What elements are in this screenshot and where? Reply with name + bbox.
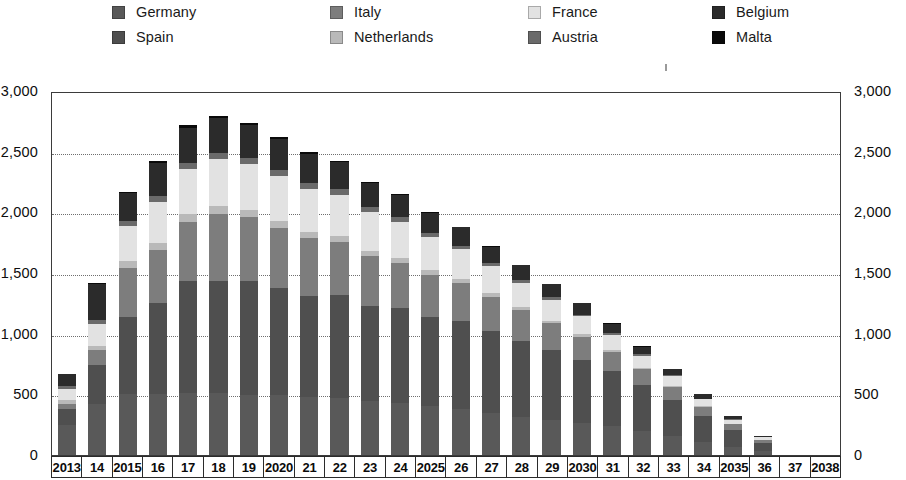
bar-segment-france <box>240 164 258 210</box>
y-tick-label-right: 0 <box>854 447 906 463</box>
bar-segment-spain <box>330 295 348 398</box>
bar-2030[interactable] <box>573 303 591 455</box>
x-tick-label: 26 <box>446 457 476 477</box>
bar-segment-france <box>573 316 591 334</box>
x-tick-label: 29 <box>538 457 568 477</box>
bar-2016[interactable] <box>149 161 167 455</box>
bar-segment-spain <box>270 288 288 395</box>
bar-segment-germany <box>209 393 227 455</box>
stacked-bar-chart: 3,0002,5002,0001,5001,0005000 3,0002,500… <box>0 0 906 480</box>
bar-segment-france <box>391 222 409 258</box>
bar-segment-germany <box>542 420 560 455</box>
bar-segment-germany <box>694 442 712 455</box>
y-tick-label-right: 1,500 <box>854 265 906 281</box>
bar-segment-spain <box>452 321 470 409</box>
x-tick-label: 2025 <box>416 457 446 477</box>
x-tick-label: 33 <box>659 457 689 477</box>
bar-2023[interactable] <box>361 182 379 455</box>
bar-2017[interactable] <box>179 125 197 455</box>
bar-2024[interactable] <box>391 194 409 455</box>
bar-2019[interactable] <box>240 123 258 455</box>
bar-segment-belgium <box>240 125 258 158</box>
bar-segment-germany <box>452 409 470 455</box>
bar-segment-italy <box>633 369 651 385</box>
bar-segment-belgium <box>88 284 106 320</box>
bar-segment-germany <box>421 406 439 455</box>
bar-segment-italy <box>663 387 681 400</box>
bar-2021[interactable] <box>300 152 318 455</box>
y-tick-label-right: 500 <box>854 386 906 402</box>
bar-2035[interactable] <box>724 416 742 455</box>
bar-segment-italy <box>421 275 439 317</box>
bar-segment-germany <box>119 394 137 455</box>
bar-segment-france <box>209 159 227 206</box>
y-tick-label-left: 500 <box>0 386 38 402</box>
bar-2018[interactable] <box>209 116 227 455</box>
bar-2025[interactable] <box>421 212 439 455</box>
bar-segment-germany <box>754 451 772 455</box>
bar-segment-italy <box>119 268 137 317</box>
bar-segment-spain <box>240 281 258 395</box>
bar-segment-france <box>542 300 560 321</box>
bar-2028[interactable] <box>512 265 530 455</box>
y-tick-label-right: 2,000 <box>854 204 906 220</box>
y-tick-label-left: 2,000 <box>0 204 38 220</box>
bar-2015[interactable] <box>119 191 137 455</box>
x-tick-label: 34 <box>689 457 719 477</box>
bar-segment-france <box>88 324 106 346</box>
bar-2014[interactable] <box>88 283 106 455</box>
x-tick-label: 23 <box>355 457 385 477</box>
bar-segment-netherlands <box>149 243 167 250</box>
bar-segment-spain <box>58 409 76 425</box>
bar-segment-france <box>421 237 439 270</box>
bar-segment-spain <box>391 308 409 403</box>
bar-segment-spain <box>754 443 772 451</box>
bar-segment-spain <box>209 281 227 393</box>
bar-2034[interactable] <box>694 394 712 455</box>
bar-segment-france <box>119 226 137 261</box>
bar-segment-france <box>512 283 530 307</box>
bar-2033[interactable] <box>663 369 681 455</box>
bar-segment-france <box>149 202 167 243</box>
bar-segment-germany <box>361 401 379 455</box>
x-tick-label: 22 <box>325 457 355 477</box>
bar-segment-belgium <box>573 303 591 314</box>
bar-2027[interactable] <box>482 246 500 455</box>
bar-segment-germany <box>391 403 409 455</box>
bar-segment-spain <box>421 317 439 406</box>
bar-segment-netherlands <box>300 232 318 239</box>
bar-segment-italy <box>209 214 227 281</box>
bar-segment-belgium <box>512 265 530 280</box>
x-tick-label: 19 <box>234 457 264 477</box>
bar-segment-spain <box>694 416 712 442</box>
bar-2022[interactable] <box>330 161 348 455</box>
bar-segment-netherlands <box>240 210 258 217</box>
bar-2029[interactable] <box>542 284 560 455</box>
bar-segment-italy <box>149 250 167 303</box>
bar-segment-belgium <box>270 139 288 170</box>
bar-2026[interactable] <box>452 227 470 456</box>
bar-segment-germany <box>270 395 288 455</box>
bar-2031[interactable] <box>603 323 621 455</box>
bar-segment-germany <box>482 413 500 455</box>
bar-2020[interactable] <box>270 137 288 455</box>
bar-2036[interactable] <box>754 436 772 455</box>
bar-segment-italy <box>452 283 470 322</box>
bar-segment-belgium <box>482 247 500 264</box>
y-tick-label-right: 1,000 <box>854 326 906 342</box>
x-tick-label: 32 <box>629 457 659 477</box>
bar-2032[interactable] <box>633 346 651 455</box>
bar-segment-belgium <box>209 118 227 153</box>
bar-segment-italy <box>330 242 348 295</box>
x-axis-labels: 2013142015161718192020212223242025262728… <box>51 456 841 478</box>
bar-segment-belgium <box>58 374 76 386</box>
bar-segment-spain <box>573 360 591 423</box>
bar-segment-france <box>482 266 500 293</box>
bar-2013[interactable] <box>58 374 76 455</box>
x-tick-label: 21 <box>295 457 325 477</box>
bar-segment-belgium <box>119 193 137 221</box>
bar-segment-italy <box>88 350 106 364</box>
y-tick-label-left: 2,500 <box>0 144 38 160</box>
bar-segment-france <box>452 249 470 279</box>
bar-segment-france <box>330 195 348 237</box>
